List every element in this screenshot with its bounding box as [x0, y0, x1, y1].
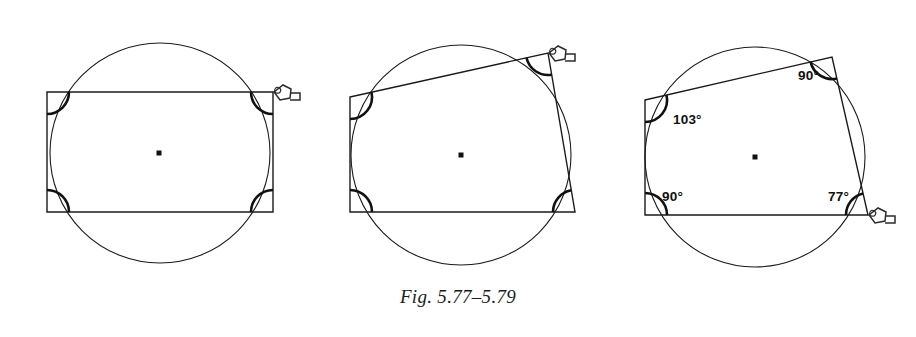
angle-label-top-left: 103° [673, 112, 702, 127]
figures-row: 103° 90° 90° 77° [0, 0, 916, 285]
circle-center-dot [753, 155, 758, 160]
angle-arc-bottom-right [553, 190, 571, 212]
spiral-rotation-marker [274, 85, 300, 100]
angle-arc-top-left [47, 92, 69, 114]
figure-panel-3: 103° 90° 90° 77° [606, 0, 911, 285]
angle-label-top-right: 90° [798, 68, 819, 83]
figure-1-drawing [0, 0, 305, 285]
figure-2-drawing [303, 0, 608, 285]
angle-arc-top-right [527, 58, 552, 75]
spiral-rotation-marker [549, 46, 575, 61]
angle-label-bottom-right: 77° [828, 189, 849, 204]
figure-caption: Fig. 5.77–5.79 [0, 286, 916, 308]
circle-center-dot [157, 151, 162, 156]
spiral-rotation-marker [869, 208, 895, 223]
figure-panel-2 [303, 0, 608, 285]
figure-3-drawing: 103° 90° 90° 77° [606, 0, 911, 285]
angle-arc-top-right [251, 92, 273, 114]
angle-label-bottom-left: 90° [662, 189, 683, 204]
figure-panel-1 [0, 0, 305, 285]
figure-sheet: 103° 90° 90° 77° Fig. 5.77–5.79 [0, 0, 916, 337]
circle-center-dot [459, 153, 464, 158]
